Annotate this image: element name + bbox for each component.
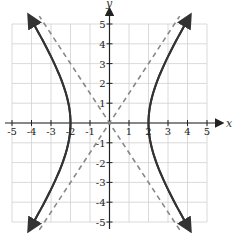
y-tick-label: 4 <box>99 39 105 50</box>
x-tick-label: 1 <box>126 126 132 137</box>
y-tick-label: -4 <box>96 197 106 208</box>
x-tick-label: -5 <box>7 126 17 137</box>
y-tick-label: 3 <box>99 59 105 70</box>
x-tick-label: -1 <box>85 126 95 137</box>
y-tick-label: -3 <box>96 177 106 188</box>
hyperbola-graph: -5-4-3-2-11234554321-1-2-3-4-5 x y <box>0 0 235 233</box>
x-tick-label: 4 <box>184 126 190 137</box>
y-tick-label: -1 <box>96 138 106 149</box>
x-tick-label: -3 <box>46 126 56 137</box>
y-tick-label: -2 <box>96 158 106 169</box>
x-tick-label: -4 <box>27 126 37 137</box>
y-axis-label: y <box>105 0 113 10</box>
y-tick-label: -5 <box>96 217 106 228</box>
axes <box>5 9 222 229</box>
x-axis-label: x <box>226 117 233 130</box>
y-tick-label: 1 <box>99 98 105 109</box>
y-tick-label: 5 <box>99 19 105 30</box>
x-tick-label: -2 <box>66 126 76 137</box>
x-tick-label: 2 <box>145 126 151 137</box>
y-tick-label: 2 <box>99 78 105 89</box>
x-tick-label: 5 <box>204 126 210 137</box>
x-tick-label: 3 <box>165 126 171 137</box>
